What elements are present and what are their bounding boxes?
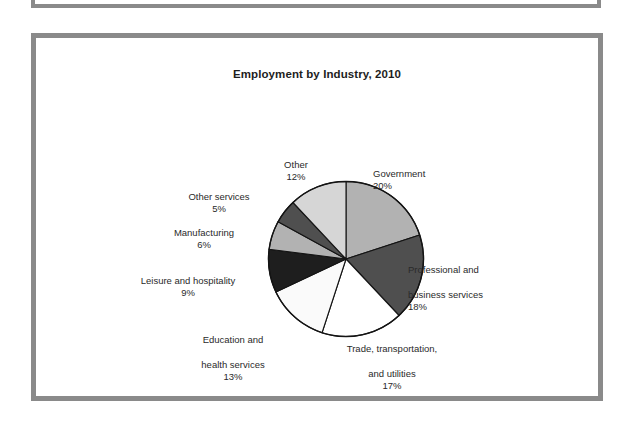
pie-label-leisure-pct: 9% bbox=[113, 287, 263, 300]
pie-label-professional-line2: business services bbox=[408, 289, 483, 300]
pie-label-professional-line1: Professional and bbox=[408, 264, 479, 275]
pie-label-manufacturing-text: Manufacturing bbox=[174, 227, 234, 238]
pie-label-trade-line2: and utilities bbox=[368, 368, 416, 379]
top-partial-frame bbox=[31, 0, 601, 8]
pie-label-trade-pct: 17% bbox=[312, 380, 472, 393]
pie-label-other-text: Other bbox=[284, 159, 308, 170]
pie-label-other: Other 12% bbox=[241, 146, 351, 196]
pie-label-trade-line1: Trade, transportation, bbox=[347, 343, 437, 354]
pie-label-other-pct: 12% bbox=[241, 171, 351, 184]
pie-chart: Government 20% Professional and business… bbox=[40, 42, 594, 392]
pie-label-government-pct: 20% bbox=[373, 180, 493, 193]
pie-label-trade: Trade, transportation, and utilities 17% bbox=[312, 330, 472, 405]
pie-label-government-text: Government bbox=[373, 168, 425, 179]
figure-inner-panel: Employment by Industry, 2010 Government … bbox=[39, 41, 595, 393]
pie-label-professional-pct: 18% bbox=[408, 301, 528, 314]
pie-label-other-services-pct: 5% bbox=[154, 203, 284, 216]
pie-label-education: Education and health services 13% bbox=[168, 321, 298, 396]
pie-label-leisure-text: Leisure and hospitality bbox=[141, 275, 236, 286]
pie-label-professional: Professional and business services 18% bbox=[408, 251, 528, 326]
pie-label-education-pct: 13% bbox=[168, 371, 298, 384]
pie-label-government: Government 20% bbox=[373, 155, 493, 205]
figure-frame: Employment by Industry, 2010 Government … bbox=[31, 33, 603, 401]
pie-label-leisure: Leisure and hospitality 9% bbox=[113, 262, 263, 312]
pie-label-manufacturing-pct: 6% bbox=[139, 239, 269, 252]
pie-label-education-line2: health services bbox=[201, 359, 264, 370]
pie-label-education-line1: Education and bbox=[203, 334, 264, 345]
